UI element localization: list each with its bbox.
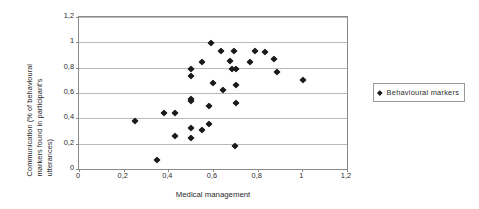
x-axis-tick-label: 0	[76, 172, 80, 179]
plot-area	[78, 16, 348, 170]
gridline-horizontal	[79, 118, 347, 119]
data-point	[233, 65, 240, 72]
y-axis-tick-mark	[76, 118, 79, 119]
gridline-horizontal	[79, 17, 347, 18]
x-axis-tick-label: 0,2	[118, 172, 128, 179]
data-point	[187, 98, 194, 105]
data-point	[198, 127, 205, 134]
data-point	[246, 58, 253, 65]
y-axis-tick-label: 1	[52, 37, 74, 44]
data-point	[217, 47, 224, 54]
y-axis-tick-labels: 00,20,40,60,811,2	[52, 0, 74, 209]
data-point	[226, 57, 233, 64]
x-axis-tick-labels: 00,20,40,60,811,2	[78, 172, 348, 184]
scatter-chart: Communication (% of behavioural markers …	[0, 0, 479, 209]
y-axis-tick-mark	[76, 68, 79, 69]
legend-entry-label: Behavioural markers	[387, 88, 460, 97]
data-point	[233, 81, 240, 88]
data-point	[233, 99, 240, 106]
chart-legend: Behavioural markers	[373, 83, 465, 102]
x-axis-tick-label: 0,4	[162, 172, 172, 179]
data-point	[231, 47, 238, 54]
data-point	[300, 76, 307, 83]
data-point	[262, 48, 269, 55]
x-axis-tick-label: 1,2	[341, 172, 351, 179]
gridline-horizontal	[79, 93, 347, 94]
y-axis-tick-label: 0,2	[52, 139, 74, 146]
x-axis-tick-label: 0,8	[252, 172, 262, 179]
y-axis-tick-mark	[76, 42, 79, 43]
legend-diamond-marker-icon	[377, 90, 382, 95]
y-axis-tick-mark	[76, 93, 79, 94]
data-point	[209, 79, 216, 86]
data-point	[171, 133, 178, 140]
data-point	[160, 110, 167, 117]
data-point	[205, 102, 212, 109]
y-axis-title-line-2: markers found in participant's	[36, 78, 43, 176]
data-point	[205, 120, 212, 127]
x-axis-tick-label: 0,6	[207, 172, 217, 179]
y-axis-tick-label: 0,8	[52, 63, 74, 70]
x-axis-title: Medical management	[78, 190, 348, 199]
data-point	[271, 56, 278, 63]
data-point	[187, 72, 194, 79]
data-point	[273, 69, 280, 76]
y-axis-tick-label: 0,4	[52, 113, 74, 120]
y-axis-tick-mark	[76, 17, 79, 18]
data-point	[187, 124, 194, 131]
y-axis-tick-label: 1,2	[52, 12, 74, 19]
gridline-horizontal	[79, 68, 347, 69]
y-axis-tick-label: 0	[52, 164, 74, 171]
gridline-horizontal	[79, 144, 347, 145]
x-axis-tick-label: 1	[299, 172, 303, 179]
y-axis-tick-mark	[76, 144, 79, 145]
y-axis-tick-label: 0,6	[52, 88, 74, 95]
data-point	[154, 157, 161, 164]
y-axis-title-line-1: Communication (% of behavioural	[26, 64, 33, 176]
data-point	[207, 39, 214, 46]
data-point	[198, 58, 205, 65]
data-point	[187, 134, 194, 141]
data-point	[171, 110, 178, 117]
data-point	[252, 47, 259, 54]
